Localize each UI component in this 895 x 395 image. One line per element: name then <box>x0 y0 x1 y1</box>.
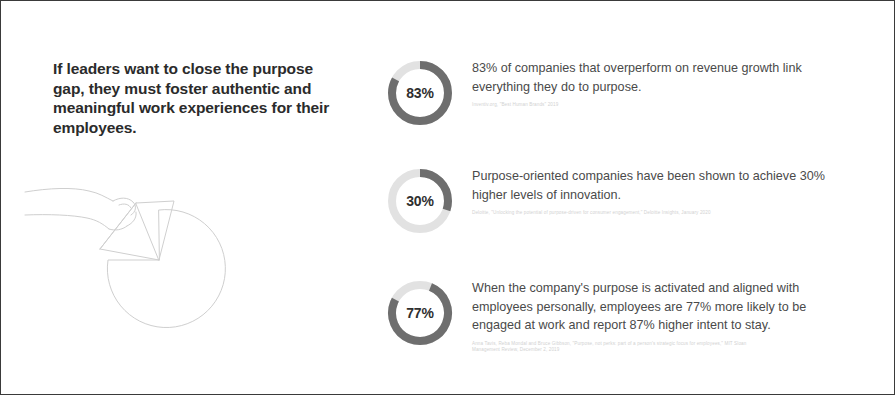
stat-row: 83% 83% of companies that overperform on… <box>384 53 854 139</box>
stat-body-text: Purpose-oriented companies have been sho… <box>472 167 844 204</box>
page-title: If leaders want to close the purpose gap… <box>53 59 333 137</box>
stat-text-group: When the company's purpose is activated … <box>472 273 854 354</box>
slide-container: If leaders want to close the purpose gap… <box>0 0 895 395</box>
stat-body-text: 83% of companies that overperform on rev… <box>472 59 844 96</box>
donut-value-label: 83% <box>384 57 456 129</box>
stat-body-text: When the company's purpose is activated … <box>472 279 844 335</box>
donut-value-label: 30% <box>384 165 456 237</box>
stat-row: 30% Purpose-oriented companies have been… <box>384 161 854 247</box>
hand-placing-pie-slice-illustration <box>23 161 263 346</box>
statistics-list: 83% 83% of companies that overperform on… <box>384 53 854 359</box>
stat-source-citation: Anna Tavis, Reba Mondal and Bruce Gibbso… <box>472 341 772 354</box>
stat-text-group: 83% of companies that overperform on rev… <box>472 53 854 109</box>
donut-chart-30: 30% <box>384 165 456 237</box>
donut-value-label: 77% <box>384 277 456 349</box>
donut-chart-83: 83% <box>384 57 456 129</box>
donut-chart-77: 77% <box>384 277 456 349</box>
stat-source-citation: Inventiv.org, "Best Human Brands" 2019 <box>472 102 772 109</box>
stat-row: 77% When the company's purpose is activa… <box>384 273 854 359</box>
stat-source-citation: Deloitte, "Unlocking the potential of pu… <box>472 210 772 217</box>
stat-text-group: Purpose-oriented companies have been sho… <box>472 161 854 217</box>
